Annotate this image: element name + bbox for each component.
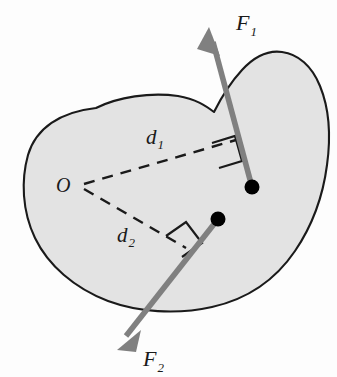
force-label-f2-base: F — [142, 346, 157, 371]
moment-arm-label-d1-base: d — [146, 125, 157, 149]
moment-arm-label-d2-subscript: 2 — [129, 235, 136, 250]
force-label-f2-subscript: 2 — [157, 360, 164, 375]
application-point-f2 — [211, 212, 226, 227]
moment-arm-label-d1-subscript: 1 — [158, 137, 165, 152]
moment-arm-label-d2-base: d — [117, 223, 128, 247]
force-label-f2: F2 — [142, 346, 164, 375]
application-point-f1 — [245, 180, 260, 195]
force-label-f1-base: F — [235, 10, 250, 35]
torque-diagram: F1 F2 d1 d2 O — [0, 0, 337, 377]
pivot-label-o: O — [56, 174, 70, 196]
force-label-f1-subscript: 1 — [250, 24, 257, 39]
force-vector-f1-arrowhead — [197, 27, 220, 56]
force-label-f1: F1 — [235, 10, 257, 39]
